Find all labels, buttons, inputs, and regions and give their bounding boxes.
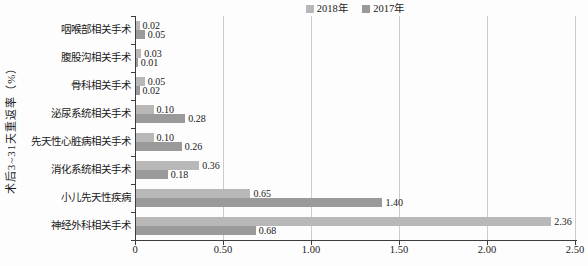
legend-item-2018: 2018年 (306, 2, 348, 15)
bar-2018年-6 (136, 189, 250, 198)
x-tick-label-1.50: 1.50 (390, 244, 408, 255)
bar-2017年-7 (136, 226, 256, 235)
bar-2017年-1 (136, 58, 138, 67)
bar-2018年-3 (136, 105, 154, 114)
x-axis-line (135, 240, 577, 241)
category-label-5: 消化系统相关手术 (0, 164, 131, 176)
legend-label-2017: 2017年 (373, 2, 404, 15)
y-tick-mark-2 (131, 72, 135, 73)
y-tick-mark-1 (131, 44, 135, 45)
value-label-2017年-7: 0.68 (259, 226, 277, 235)
category-label-6: 小儿先天性疾病 (0, 192, 131, 204)
bar-chart-figure: 术后3~31天重返率（%） 2018年 2017年 0.020.050.030.… (0, 0, 588, 266)
bar-2018年-7 (136, 217, 551, 226)
value-label-2017年-6: 1.40 (385, 198, 403, 207)
legend-item-2017: 2017年 (362, 2, 404, 15)
x-tick-label-2.00: 2.00 (478, 244, 496, 255)
y-tick-mark-8 (131, 240, 135, 241)
value-label-2017年-2: 0.02 (143, 86, 161, 95)
value-label-2018年-6: 0.65 (253, 189, 271, 198)
value-label-2018年-5: 0.36 (202, 161, 220, 170)
y-tick-mark-4 (131, 128, 135, 129)
value-label-2018年-4: 0.10 (157, 133, 175, 142)
category-label-4: 先天性心脏病相关手术 (0, 136, 131, 148)
category-label-0: 咽喉部相关手术 (0, 24, 131, 36)
category-label-2: 骨科相关手术 (0, 80, 131, 92)
legend: 2018年 2017年 (135, 2, 575, 15)
x-tick-label-1.00: 1.00 (302, 244, 320, 255)
bar-2018年-4 (136, 133, 154, 142)
y-tick-mark-6 (131, 184, 135, 185)
y-tick-mark-0 (131, 16, 135, 17)
value-label-2017年-5: 0.18 (171, 170, 189, 179)
y-tick-mark-5 (131, 156, 135, 157)
bar-2017年-6 (136, 198, 382, 207)
bar-2017年-2 (136, 86, 140, 95)
x-tick-label-2.50: 2.50 (566, 244, 584, 255)
value-label-2017年-0: 0.05 (148, 30, 166, 39)
category-label-1: 腹股沟相关手术 (0, 52, 131, 64)
value-label-2018年-3: 0.10 (157, 105, 175, 114)
gridline-2.00 (487, 16, 488, 240)
bar-2018年-0 (136, 21, 140, 30)
plot-area: 0.020.050.030.010.050.020.100.280.100.26… (135, 16, 575, 240)
legend-swatch-2018 (306, 5, 314, 13)
legend-swatch-2017 (362, 5, 370, 13)
bar-2017年-5 (136, 170, 168, 179)
value-label-2017年-3: 0.28 (188, 114, 206, 123)
bar-2017年-0 (136, 30, 145, 39)
x-tick-label-0: 0 (132, 244, 137, 255)
bar-2018年-5 (136, 161, 199, 170)
category-label-7: 神经外科相关手术 (0, 220, 131, 232)
y-tick-mark-7 (131, 212, 135, 213)
category-label-3: 泌尿系统相关手术 (0, 108, 131, 120)
y-tick-mark-3 (131, 100, 135, 101)
bar-2017年-3 (136, 114, 185, 123)
value-label-2018年-7: 2.36 (554, 217, 572, 226)
gridline-2.50 (575, 16, 576, 240)
bar-2017年-4 (136, 142, 182, 151)
value-label-2017年-1: 0.01 (141, 58, 159, 67)
x-tick-label-0.50: 0.50 (214, 244, 232, 255)
legend-label-2018: 2018年 (317, 2, 348, 15)
value-label-2017年-4: 0.26 (185, 142, 203, 151)
